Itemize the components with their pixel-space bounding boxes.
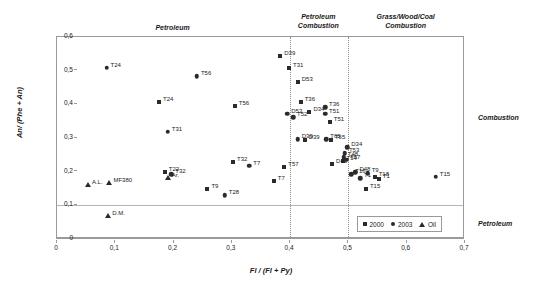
square-marker-icon bbox=[163, 170, 167, 174]
square-marker-icon bbox=[157, 100, 161, 104]
square-marker-icon bbox=[231, 160, 235, 164]
circle-marker-icon bbox=[247, 163, 252, 168]
x-axis-tick: 0,1 bbox=[99, 244, 129, 251]
square-marker-icon bbox=[282, 165, 286, 169]
triangle-marker-icon bbox=[85, 182, 91, 187]
data-point-label: T28 bbox=[229, 189, 239, 195]
data-point-label: Ar. bbox=[172, 172, 179, 178]
circle-marker-icon bbox=[223, 193, 228, 198]
y-axis-tick: 0,2 bbox=[33, 167, 73, 174]
legend-label: 2003 bbox=[398, 221, 412, 228]
square-marker-icon bbox=[307, 110, 311, 114]
square-marker-icon bbox=[364, 187, 368, 191]
zone-label-line: Grass/Wood/Coal bbox=[361, 12, 451, 21]
x-tick-mark bbox=[56, 240, 57, 243]
square-marker-icon bbox=[363, 222, 367, 226]
x-axis-tick: 0,3 bbox=[216, 244, 246, 251]
legend-item: Oil bbox=[419, 221, 435, 228]
legend-item: 2000 bbox=[363, 221, 384, 228]
data-point-label: T24 bbox=[163, 96, 173, 102]
data-point-label: D39 bbox=[302, 133, 313, 139]
triangle-marker-icon bbox=[419, 222, 425, 227]
x-axis-tick: 0,6 bbox=[391, 244, 421, 251]
data-point-label: T31 bbox=[293, 62, 303, 68]
y-tick-mark bbox=[74, 204, 77, 205]
data-point-label: D39 bbox=[284, 50, 295, 56]
square-marker-icon bbox=[272, 179, 276, 183]
x-axis-tick: 0 bbox=[41, 244, 71, 251]
square-marker-icon bbox=[233, 104, 237, 108]
data-point-label: A.L. bbox=[92, 179, 103, 185]
x-axis-tick: 0,4 bbox=[274, 244, 304, 251]
data-point-label: T57 bbox=[288, 161, 298, 167]
x-axis-tick: 0,7 bbox=[449, 244, 479, 251]
data-point-label: T15 bbox=[370, 183, 380, 189]
circle-marker-icon bbox=[324, 137, 329, 142]
y-axis-tick: 0,5 bbox=[33, 66, 73, 73]
data-point-label: T16 bbox=[355, 168, 365, 174]
square-marker-icon bbox=[287, 66, 291, 70]
data-point-label: D.M. bbox=[112, 210, 125, 216]
x-tick-mark bbox=[114, 240, 115, 243]
zone-label-line: Petroleum bbox=[273, 12, 363, 21]
circle-marker-icon bbox=[291, 115, 296, 120]
circle-marker-icon bbox=[323, 112, 328, 117]
circle-marker-icon bbox=[434, 174, 439, 179]
y-axis-label: An/ (Phe + An) bbox=[15, 48, 24, 178]
y-axis-tick: 0,4 bbox=[33, 99, 73, 106]
triangle-marker-icon bbox=[165, 175, 171, 180]
circle-marker-icon bbox=[358, 176, 363, 181]
data-point-label: D53 bbox=[302, 76, 313, 82]
x-tick-mark bbox=[406, 240, 407, 243]
side-label: Combustion bbox=[478, 113, 519, 122]
square-marker-icon bbox=[330, 162, 334, 166]
zone-label-line: Combustion bbox=[273, 21, 363, 30]
triangle-marker-icon bbox=[105, 213, 111, 218]
y-axis-tick: 0 bbox=[33, 234, 73, 241]
zone-divider-vertical bbox=[348, 37, 349, 237]
zone-label: Grass/Wood/CoalCombustion bbox=[361, 12, 451, 30]
y-tick-mark bbox=[74, 137, 77, 138]
circle-marker-icon bbox=[195, 74, 200, 79]
zone-label-line: Combustion bbox=[361, 21, 451, 30]
data-point-label: T24 bbox=[111, 62, 121, 68]
circle-marker-icon bbox=[285, 112, 290, 117]
y-axis-tick: 0,6 bbox=[33, 32, 73, 39]
data-point-label: T7 bbox=[253, 160, 260, 166]
y-tick-mark bbox=[74, 170, 77, 171]
data-point-label: T9 bbox=[372, 167, 379, 173]
legend-label: Oil bbox=[428, 221, 436, 228]
data-point-label: T56 bbox=[201, 70, 211, 76]
circle-marker-icon bbox=[165, 130, 170, 135]
x-tick-mark bbox=[231, 240, 232, 243]
data-point-label: T1 bbox=[383, 173, 390, 179]
zone-divider-horizontal bbox=[57, 205, 463, 206]
circle-marker-icon bbox=[365, 171, 370, 176]
data-point-label: T57 bbox=[350, 154, 360, 160]
square-marker-icon bbox=[296, 80, 300, 84]
circle-marker-icon bbox=[349, 172, 354, 177]
y-tick-mark bbox=[74, 69, 77, 70]
x-tick-mark bbox=[173, 240, 174, 243]
circle-marker-icon bbox=[104, 66, 109, 71]
data-point-label: T56 bbox=[239, 100, 249, 106]
side-label: Petroleum bbox=[478, 219, 512, 228]
y-tick-mark bbox=[74, 103, 77, 104]
square-marker-icon bbox=[205, 187, 209, 191]
data-point-label: T31 bbox=[172, 126, 182, 132]
data-point-label: T9 bbox=[211, 183, 218, 189]
y-tick-mark bbox=[74, 238, 77, 239]
square-marker-icon bbox=[299, 100, 303, 104]
data-point-label: T7 bbox=[278, 175, 285, 181]
square-marker-icon bbox=[278, 54, 282, 58]
plot-area: T24T56D39T31D53T36D34T51T65D39T54D43T32T… bbox=[56, 36, 464, 238]
circle-marker-icon bbox=[323, 105, 328, 110]
chart-legend: 20002003Oil bbox=[357, 216, 442, 232]
data-point-label: T36 bbox=[329, 101, 339, 107]
y-axis-tick: 0,3 bbox=[33, 133, 73, 140]
data-point-label: MF380 bbox=[113, 177, 132, 183]
circle-marker-icon bbox=[391, 222, 396, 227]
x-axis-tick: 0,2 bbox=[158, 244, 188, 251]
data-point-label: T36 bbox=[305, 96, 315, 102]
triangle-marker-icon bbox=[106, 180, 112, 185]
